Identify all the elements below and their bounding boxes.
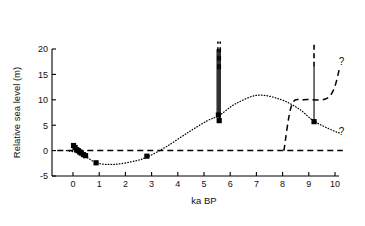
x-tick-label: 5 <box>201 179 206 189</box>
lower-question-mark: ? <box>339 126 345 137</box>
x-tick-label: 1 <box>97 179 102 189</box>
sea-level-curve <box>66 95 340 164</box>
x-tick-label: 8 <box>280 179 285 189</box>
y-axis-ticks <box>52 49 56 176</box>
x-tick-label: 2 <box>123 179 128 189</box>
y-tick-label: 0 <box>43 146 48 156</box>
limiting-envelope-curve <box>284 67 340 150</box>
chart-annotations: ?? <box>339 56 345 138</box>
data-point-marker <box>217 118 222 123</box>
y-tick-label: 15 <box>38 70 48 80</box>
y-axis-label: Relative sea level (m) <box>11 67 22 158</box>
x-axis-ticks <box>73 172 335 176</box>
x-tick-label: 0 <box>70 179 75 189</box>
x-tick-label: 9 <box>306 179 311 189</box>
y-tick-label: 20 <box>38 44 48 54</box>
y-tick-label: 5 <box>43 121 48 131</box>
y-tick-label: -5 <box>40 171 48 181</box>
x-axis-label: ka BP <box>191 195 216 206</box>
x-tick-label: 4 <box>175 179 180 189</box>
x-tick-label: 6 <box>228 179 233 189</box>
axis-tick-labels: 012345678910-505101520 <box>38 44 340 189</box>
axes <box>52 49 339 176</box>
upper-question-mark: ? <box>339 56 345 67</box>
y-tick-label: 10 <box>38 95 48 105</box>
x-tick-label: 3 <box>149 179 154 189</box>
x-tick-label: 10 <box>330 179 340 189</box>
relative-sea-level-chart: 012345678910-505101520 ?? ka BP Relative… <box>0 0 365 226</box>
x-tick-label: 7 <box>254 179 259 189</box>
chart-canvas: 012345678910-505101520 ?? ka BP Relative… <box>0 0 365 226</box>
